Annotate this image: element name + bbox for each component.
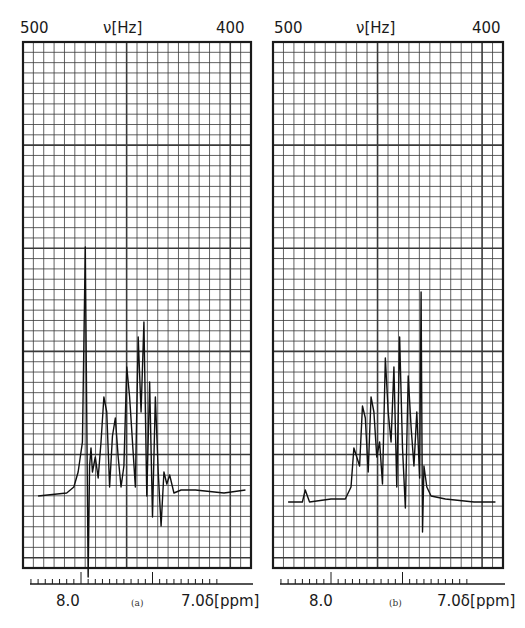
ppm-tick-8: 8.0	[309, 592, 333, 610]
spectrum-panel-b: 500 ν[Hz] 400 8.0 (b) 7.0δ[ppm]	[262, 0, 524, 628]
nmr-grid-chart-b	[262, 0, 524, 628]
ppm-axis-label: 7.0δ[ppm]	[437, 592, 515, 610]
ppm-axis-label: 7.0δ[ppm]	[181, 592, 259, 610]
panel-caption: (b)	[389, 598, 402, 608]
nmr-spectrum-trace	[38, 247, 245, 577]
panel-caption: (a)	[131, 598, 143, 608]
nmr-grid-chart-a	[0, 0, 262, 628]
ppm-tick-8: 8.0	[56, 592, 80, 610]
spectrum-panel-a: 500 ν[Hz] 400 8.0 (a) 7.0δ[ppm]	[0, 0, 262, 628]
